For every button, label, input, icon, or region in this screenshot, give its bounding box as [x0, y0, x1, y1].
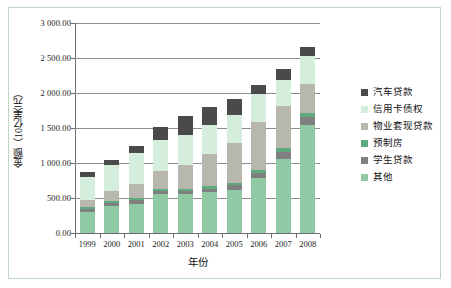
legend-swatch-icon: [361, 106, 368, 113]
bar-segment[interactable]: [276, 148, 291, 152]
bar-segment[interactable]: [202, 154, 217, 186]
bar-segment[interactable]: [300, 117, 315, 125]
bar-segment[interactable]: [80, 172, 95, 177]
bar-segment[interactable]: [251, 94, 266, 122]
bar-segment[interactable]: [202, 186, 217, 188]
legend-item[interactable]: 学生贷款: [361, 152, 439, 169]
legend-item[interactable]: 预制房: [361, 135, 439, 152]
bar-segment[interactable]: [227, 183, 242, 186]
bar-column[interactable]: [178, 116, 193, 233]
y-axis-tick-label: 2 500.00: [13, 53, 71, 63]
legend-item[interactable]: 汽车贷款: [361, 84, 439, 101]
bar-segment[interactable]: [104, 191, 119, 201]
bar-segment[interactable]: [251, 178, 266, 233]
bar-column[interactable]: [129, 146, 144, 234]
bar-segment[interactable]: [153, 191, 168, 194]
bar-segment[interactable]: [153, 171, 168, 189]
bar-segment[interactable]: [153, 140, 168, 171]
bar-segment[interactable]: [153, 189, 168, 191]
bar-segment[interactable]: [251, 173, 266, 179]
bar-segment[interactable]: [80, 200, 95, 207]
bar-segment[interactable]: [104, 203, 119, 206]
bar-segment[interactable]: [80, 177, 95, 200]
y-axis-tick-label: 1 500.00: [13, 123, 71, 133]
bar-segment[interactable]: [300, 47, 315, 55]
x-axis-title: 年份: [75, 254, 320, 269]
bar-segment[interactable]: [227, 99, 242, 115]
bar-segment[interactable]: [276, 106, 291, 148]
bar-segment[interactable]: [129, 204, 144, 233]
legend-item-label: 学生贷款: [373, 155, 413, 166]
bar-segment[interactable]: [251, 122, 266, 170]
y-axis-tick-label: 2 000.00: [13, 88, 71, 98]
legend-swatch-icon: [361, 174, 368, 181]
bar-segment[interactable]: [129, 184, 144, 198]
bar-segment[interactable]: [276, 159, 291, 233]
x-axis-tick-mark: [124, 234, 125, 238]
bar-segment[interactable]: [276, 69, 291, 81]
bar-column[interactable]: [227, 99, 242, 233]
bar-segment[interactable]: [300, 56, 315, 84]
bar-segment[interactable]: [104, 160, 119, 166]
x-axis-tick-mark: [100, 234, 101, 238]
x-axis-tick-mark: [247, 234, 248, 238]
bar-column[interactable]: [251, 85, 266, 233]
bar-segment[interactable]: [202, 189, 217, 193]
bar-segment[interactable]: [80, 207, 95, 209]
bar-segment[interactable]: [104, 201, 119, 203]
bar-segment[interactable]: [227, 185, 242, 190]
bar-segment[interactable]: [251, 85, 266, 94]
bar-segment[interactable]: [227, 190, 242, 233]
bar-segment[interactable]: [300, 125, 315, 233]
bar-column[interactable]: [104, 160, 119, 234]
bar-column[interactable]: [276, 69, 291, 234]
bar-segment[interactable]: [129, 146, 144, 154]
legend-swatch-icon: [361, 89, 368, 96]
y-axis-ticks: 0.00500.001 000.001 500.002 000.002 500.…: [9, 23, 71, 234]
legend-swatch-icon: [361, 123, 368, 130]
x-axis-tick-mark: [173, 234, 174, 238]
bar-segment[interactable]: [300, 84, 315, 113]
y-axis-tick-label: 1 000.00: [13, 158, 71, 168]
y-axis-tick-label: 3 000.00: [13, 18, 71, 28]
x-axis-tick-label: 2008: [293, 239, 323, 249]
bar-segment[interactable]: [178, 116, 193, 135]
bar-column[interactable]: [153, 127, 168, 233]
bar-segment[interactable]: [153, 127, 168, 140]
bar-segment[interactable]: [129, 200, 144, 204]
bar-segment[interactable]: [80, 212, 95, 233]
legend-item[interactable]: 其他: [361, 169, 439, 186]
bar-segment[interactable]: [251, 170, 266, 173]
bar-segment[interactable]: [276, 80, 291, 106]
bar-segment[interactable]: [227, 115, 242, 143]
legend-item[interactable]: 物业套现贷款: [361, 118, 439, 135]
bar-segment[interactable]: [276, 152, 291, 159]
gridline: [75, 58, 320, 59]
bar-segment[interactable]: [178, 135, 193, 166]
bar-column[interactable]: [80, 172, 95, 233]
bar-segment[interactable]: [153, 194, 168, 233]
chart-legend: 汽车贷款信用卡债权物业套现贷款预制房学生贷款其他: [361, 84, 439, 186]
bar-segment[interactable]: [178, 189, 193, 191]
x-axis-tick-mark: [75, 234, 76, 238]
bar-column[interactable]: [300, 47, 315, 233]
plot-area: [75, 23, 320, 233]
bar-segment[interactable]: [300, 113, 315, 117]
bar-segment[interactable]: [104, 165, 119, 191]
x-axis-tick-mark: [222, 234, 223, 238]
bar-segment[interactable]: [178, 194, 193, 233]
bar-segment[interactable]: [129, 153, 144, 184]
bar-segment[interactable]: [202, 125, 217, 154]
bar-segment[interactable]: [104, 206, 119, 233]
bar-segment[interactable]: [129, 198, 144, 200]
bar-segment[interactable]: [202, 107, 217, 125]
bar-column[interactable]: [202, 107, 217, 233]
bar-segment[interactable]: [178, 165, 193, 188]
bar-segment[interactable]: [227, 143, 242, 182]
legend-item-label: 其他: [373, 172, 393, 183]
x-axis-tick-mark: [296, 234, 297, 238]
legend-item[interactable]: 信用卡债权: [361, 101, 439, 118]
bar-segment[interactable]: [80, 209, 95, 212]
bar-segment[interactable]: [202, 192, 217, 233]
bar-segment[interactable]: [178, 191, 193, 194]
